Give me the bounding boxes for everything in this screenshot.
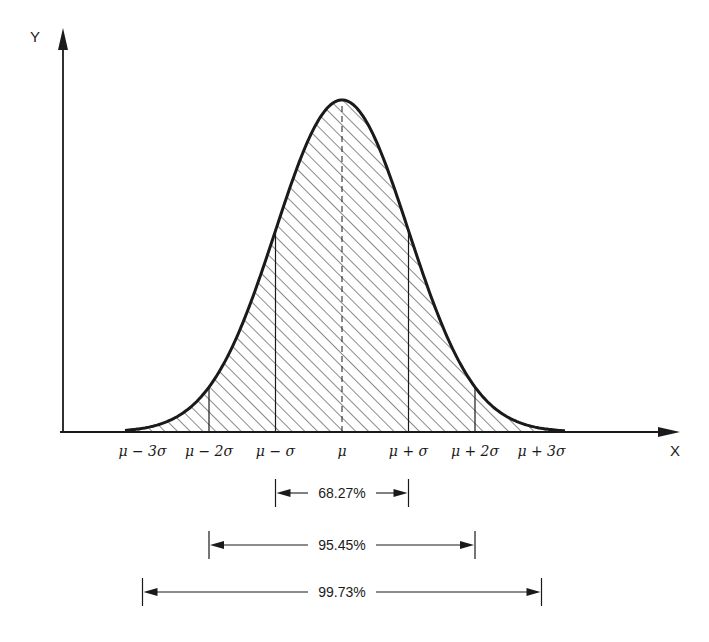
x-tick-label-p1: μ + σ: [389, 443, 429, 459]
x-tick-label-m3: μ − 3σ: [118, 443, 167, 459]
x-tick-labels: μ − 3σμ − 2σμ − σμμ + σμ + 2σμ + 3σ: [118, 443, 566, 459]
arrow-right-icon: [460, 541, 474, 549]
normal-distribution-diagram: Y X μ − 3σμ − 2σμ − σμμ + σμ + 2σμ + 3σ …: [0, 0, 709, 642]
arrow-left-icon: [210, 541, 224, 549]
interval-label-one_sigma: 68.27%: [318, 485, 365, 501]
arrow-right-icon: [527, 588, 541, 596]
arrow-left-icon: [144, 588, 158, 596]
y-axis: [58, 28, 68, 432]
x-axis-arrow-icon: [658, 427, 680, 437]
x-tick-label-m2: μ − 2σ: [185, 443, 234, 459]
x-tick-label-p2: μ + 2σ: [451, 443, 500, 459]
interval-one_sigma: 68.27%: [276, 479, 409, 507]
interval-two_sigma: 95.45%: [209, 531, 475, 559]
interval-annotations: 68.27%95.45%99.73%: [143, 479, 542, 606]
arrow-left-icon: [277, 489, 291, 497]
x-tick-label-m1: μ − σ: [256, 443, 296, 459]
y-axis-label: Y: [30, 28, 40, 45]
x-axis-label: X: [670, 442, 680, 459]
arrow-right-icon: [394, 489, 408, 497]
x-tick-label-p3: μ + 3σ: [517, 443, 566, 459]
area-under-curve: [125, 100, 566, 432]
interval-three_sigma: 99.73%: [143, 578, 542, 606]
x-tick-label-mu: μ: [337, 443, 346, 459]
interval-label-three_sigma: 99.73%: [318, 584, 365, 600]
interval-label-two_sigma: 95.45%: [318, 537, 365, 553]
y-axis-arrow-icon: [58, 28, 68, 50]
